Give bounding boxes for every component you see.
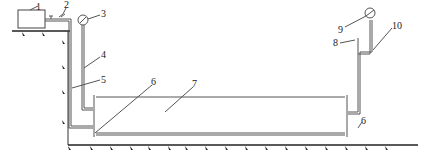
label-1: 1 — [36, 2, 41, 12]
label-2: 2 — [64, 0, 69, 10]
label-5: 5 — [101, 75, 106, 85]
label-3: 3 — [101, 9, 106, 19]
label-10: 10 — [392, 21, 402, 31]
label-4: 4 — [101, 50, 106, 60]
soil-hatch — [22, 32, 388, 150]
box-1 — [18, 10, 45, 28]
label-6-left: 6 — [151, 77, 156, 87]
label-7: 7 — [192, 79, 197, 89]
label-6-right: 6 — [361, 116, 366, 126]
label-9: 9 — [338, 25, 343, 35]
diagram-canvas — [0, 0, 424, 160]
label-8: 8 — [333, 38, 338, 48]
